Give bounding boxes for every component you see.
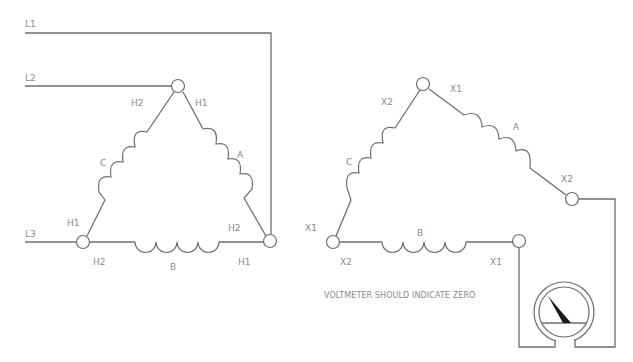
primary-h2-top-label: H2 (131, 98, 144, 108)
primary-h2-bottom-label: H2 (93, 257, 106, 267)
primary-coil-a-label: A (237, 150, 244, 160)
sec-coil-a-winding (464, 114, 530, 169)
secondary-x1-left-label: X1 (305, 223, 317, 233)
secondary-bottom-right-node (513, 235, 526, 248)
l2-label: L2 (25, 73, 36, 83)
primary-delta: L1 L2 L3 H2 H1 C A H1 H2 H2 B H1 (25, 19, 277, 272)
delta-transformer-diagram: L1 L2 L3 H2 H1 C A H1 H2 H2 B H1 (0, 0, 633, 362)
primary-h1-left-label: H1 (67, 218, 80, 228)
primary-coil-c-label: C (100, 158, 106, 168)
l3-label: L3 (25, 229, 36, 239)
voltmeter-leg-gap (556, 338, 574, 344)
secondary-x2-right-label: X2 (561, 174, 573, 184)
voltmeter-inner-dial (539, 287, 589, 337)
voltmeter-icon (534, 282, 594, 344)
secondary-right-node (566, 193, 579, 206)
secondary-x2-top-label: X2 (381, 97, 393, 107)
sec-coil-c-lead-top (395, 90, 420, 128)
secondary-coil-c-label: C (346, 157, 352, 167)
caption: VOLTMETER SHOULD INDICATE ZERO (324, 291, 475, 300)
sec-coil-b-winding (382, 242, 466, 253)
primary-right-node (264, 235, 277, 248)
sec-coil-c-winding (347, 127, 396, 200)
l1-label: L1 (25, 19, 36, 29)
l1-wire (25, 33, 271, 234)
primary-h1-bottom-label: H1 (238, 257, 251, 267)
secondary-x2-bottom-label: X2 (340, 257, 352, 267)
coil-a-lead-bottom (244, 198, 266, 236)
primary-left-node (77, 236, 90, 249)
primary-coil-b-label: B (170, 262, 176, 272)
secondary-coil-a-label: A (513, 122, 520, 132)
secondary-x1-top-label: X1 (450, 84, 462, 94)
secondary-coil-b-label: B (417, 228, 423, 238)
primary-h2-right-label: H2 (228, 223, 241, 233)
coil-b-winding (135, 242, 219, 253)
secondary-top-node (417, 78, 430, 91)
primary-h1-top-label: H1 (195, 98, 208, 108)
secondary-x1-bottom-label: X1 (490, 257, 502, 267)
coil-c-lead-top (147, 92, 174, 132)
secondary-left-node (327, 236, 340, 249)
coil-a-winding (203, 128, 253, 198)
primary-top-node (172, 80, 185, 93)
sec-coil-c-lead-bottom (336, 200, 351, 236)
coil-c-lead-bottom (87, 200, 105, 236)
